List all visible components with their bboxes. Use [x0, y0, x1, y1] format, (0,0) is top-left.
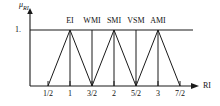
- set-label-ami: AMI: [150, 17, 166, 25]
- set-label-smi: SMI: [107, 17, 121, 25]
- x-tick-label-seven-half: 7/2: [175, 90, 185, 98]
- x-tick-label-three: 3: [156, 90, 160, 98]
- x-tick-label-two: 2: [112, 90, 116, 98]
- x-tick-label-half: 1/2: [43, 90, 53, 98]
- membership-function-chart: μRI 1. RI EI WMI SMI VSM AMI 1/2 1 3/2 2…: [0, 0, 220, 106]
- x-axis-title: RI: [203, 82, 211, 90]
- x-tick-label-three-half: 3/2: [87, 90, 97, 98]
- x-axis-arrow-icon: [191, 83, 199, 89]
- set-label-ei: EI: [66, 17, 74, 25]
- x-tick-label-five-half: 5/2: [131, 90, 141, 98]
- x-tick-label-one: 1: [68, 90, 72, 98]
- y-axis-title: μRI: [19, 1, 29, 11]
- y-axis-title-subscript: RI: [23, 5, 29, 11]
- y-tick-label-one: 1.: [15, 26, 21, 34]
- set-label-vsm: VSM: [127, 17, 144, 25]
- set-label-wmi: WMI: [83, 17, 100, 25]
